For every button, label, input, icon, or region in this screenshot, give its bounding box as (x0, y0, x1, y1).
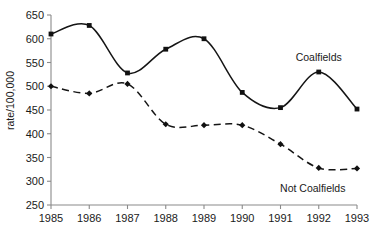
line-chart: 250300350400450500550600650 198519861987… (0, 0, 376, 235)
x-tick-label: 1993 (345, 212, 369, 224)
y-tick-label: 450 (26, 104, 44, 116)
x-tick-label: 1988 (154, 212, 178, 224)
data-point-marker (354, 165, 360, 171)
data-point-marker (49, 32, 54, 37)
data-point-marker (201, 122, 207, 128)
data-point-marker (124, 81, 130, 87)
y-tick-label: 300 (26, 175, 44, 187)
x-axis-ticks: 198519861987198819891990199119921993 (39, 205, 369, 224)
data-point-marker (278, 105, 283, 110)
chart-canvas: 250300350400450500550600650 198519861987… (0, 0, 376, 235)
x-tick-label: 1991 (268, 212, 292, 224)
data-point-marker (202, 36, 207, 41)
x-tick-label: 1992 (307, 212, 331, 224)
data-point-marker (86, 90, 92, 96)
data-point-marker (125, 71, 130, 76)
data-point-marker (239, 122, 245, 128)
series-label-coalfields: Coalfields (296, 51, 342, 63)
data-point-marker (163, 47, 168, 52)
data-point-marker (316, 70, 321, 75)
y-tick-label: 650 (26, 9, 44, 21)
y-axis-ticks: 250300350400450500550600650 (26, 9, 51, 211)
y-tick-label: 400 (26, 128, 44, 140)
series-layer (48, 23, 360, 171)
series-annotations: CoalfieldsNot Coalfields (280, 51, 345, 194)
y-axis-group: 250300350400450500550600650 (26, 9, 51, 211)
x-tick-label: 1986 (77, 212, 101, 224)
x-tick-label: 1987 (115, 212, 139, 224)
data-point-marker (316, 165, 322, 171)
x-axis-group: 198519861987198819891990199119921993 (39, 205, 369, 224)
series-label-not-coalfields: Not Coalfields (280, 182, 345, 194)
x-tick-label: 1985 (39, 212, 63, 224)
data-point-marker (87, 23, 92, 28)
data-point-marker (240, 90, 245, 95)
y-axis-title: rate/100,000 (4, 71, 16, 130)
y-tick-label: 250 (26, 199, 44, 211)
data-point-marker (355, 107, 360, 112)
data-point-marker (277, 141, 283, 147)
data-point-marker (48, 83, 54, 89)
y-tick-label: 600 (26, 33, 44, 45)
x-tick-label: 1990 (230, 212, 254, 224)
y-tick-label: 550 (26, 57, 44, 69)
y-tick-label: 350 (26, 152, 44, 164)
y-tick-label: 500 (26, 80, 44, 92)
x-tick-label: 1989 (192, 212, 216, 224)
